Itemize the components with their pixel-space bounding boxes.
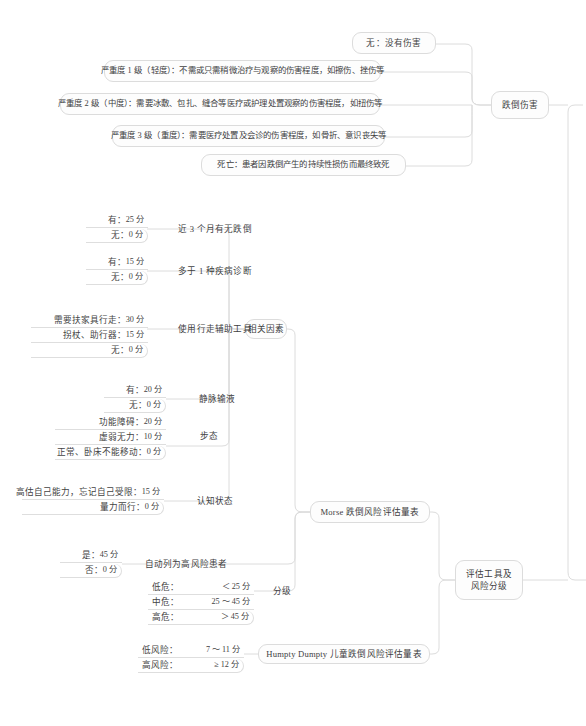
leaf-iv-infusion-yes-key: 有： <box>126 385 144 395</box>
leaf-recent-fall-no-value: 0 分 <box>129 230 143 240</box>
node-injury-none-label: 无：没有伤害 <box>366 38 421 49</box>
leaf-walking-aid-furniture-key: 需要扶家具行走： <box>54 315 126 325</box>
leaf-gait-weak-value: 10 分 <box>144 432 162 442</box>
leaf-auto-high-risk-yes-key: 是： <box>82 550 100 560</box>
node-injury-level1-label: 严重度 1 级（轻度）：不需或只需稍微治疗与观察的伤害程度，如擦伤、挫伤等 <box>101 66 385 77</box>
node-tools-and-grading[interactable]: 评估工具及 风险分级 <box>455 560 523 600</box>
leaf-cognition-within-ability-key: 量力而行： <box>100 502 145 512</box>
node-factor-cognition[interactable]: 认知状态 <box>193 491 237 511</box>
leaf-gait-impaired-key: 功能障碍： <box>99 417 144 427</box>
node-risk-grading-label: 分级 <box>273 586 291 597</box>
node-tools-and-grading-line2: 风险分级 <box>471 580 508 592</box>
leaf-humpty-low-risk[interactable]: 低风险： 7 ～ 11 分 <box>138 644 244 658</box>
leaf-grading-high-key: 高危： <box>152 612 179 622</box>
leaf-grading-low-key: 低危： <box>152 582 179 592</box>
leaf-gait-impaired-value: 20 分 <box>144 417 162 427</box>
leaf-auto-high-risk-no-value: 0 分 <box>103 565 117 575</box>
leaf-iv-infusion-no[interactable]: 无： 0 分 <box>104 399 166 413</box>
leaf-auto-high-risk-yes-value: 45 分 <box>100 550 118 560</box>
leaf-walking-aid-furniture-value: 30 分 <box>126 315 144 325</box>
leaf-walking-aid-none[interactable]: 无： 0 分 <box>31 344 148 358</box>
leaf-gait-normal[interactable]: 正常、卧床不能移动： 0 分 <box>55 446 166 460</box>
leaf-gait-normal-key: 正常、卧床不能移动： <box>57 447 147 457</box>
leaf-multiple-diagnoses-no[interactable]: 无： 0 分 <box>86 271 148 285</box>
leaf-cognition-within-ability-value: 0 分 <box>145 502 159 512</box>
leaf-cognition-within-ability[interactable]: 量力而行： 0 分 <box>22 501 164 515</box>
leaf-humpty-low-risk-value: 7 ～ 11 分 <box>206 645 240 655</box>
leaf-grading-low-value: ＜ 25 分 <box>222 582 250 592</box>
leaf-gait-weak[interactable]: 虚弱无力： 10 分 <box>55 431 166 445</box>
node-morse-scale[interactable]: Morse 跌倒风险评估量表 <box>310 501 430 523</box>
node-injury-level1[interactable]: 严重度 1 级（轻度）：不需或只需稍微治疗与观察的伤害程度，如擦伤、挫伤等 <box>104 60 381 82</box>
leaf-walking-aid-crutch-value: 15 分 <box>126 330 144 340</box>
node-factor-recent-fall-label: 近 3 个月有无跌倒 <box>178 224 252 235</box>
leaf-recent-fall-yes-key: 有： <box>108 215 126 225</box>
leaf-auto-high-risk-no-key: 否： <box>85 565 103 575</box>
leaf-cognition-overestimate-key: 高估自己能力，忘记自己受限： <box>16 487 142 497</box>
node-injury-level3-label: 严重度 3 级（重度）：需要医疗处置及会诊的伤害程度，如骨折、意识丧失等 <box>111 131 387 142</box>
leaf-auto-high-risk-yes[interactable]: 是： 45 分 <box>60 549 122 563</box>
node-fall-injury-label: 跌倒伤害 <box>502 100 539 111</box>
leaf-humpty-high-risk[interactable]: 高风险： ≥ 12 分 <box>138 659 244 673</box>
node-injury-level2[interactable]: 严重度 2 级（中度）：需要冰敷、包扎、缝合等医疗或护理处置观察的伤害程度，如扭… <box>60 93 380 115</box>
leaf-iv-infusion-no-value: 0 分 <box>147 400 161 410</box>
leaf-walking-aid-crutch[interactable]: 拐杖、助行器： 15 分 <box>31 329 148 343</box>
node-humpty-dumpty-scale[interactable]: Humpty Dumpty 儿童跌倒风险评估量表 <box>258 644 430 664</box>
leaf-multiple-diagnoses-yes[interactable]: 有： 15 分 <box>86 256 148 270</box>
leaf-grading-high[interactable]: 高危： ＞ 45 分 <box>148 611 254 625</box>
node-factor-gait[interactable]: 步态 <box>193 426 225 446</box>
leaf-humpty-high-risk-value: ≥ 12 分 <box>214 660 239 670</box>
node-injury-death-label: 死亡：患者因跌倒产生的持续性损伤而最终致死 <box>217 160 389 171</box>
node-factor-iv-infusion-label: 静脉输液 <box>199 394 236 405</box>
leaf-humpty-high-risk-key: 高风险： <box>142 660 178 670</box>
node-injury-level2-label: 严重度 2 级（中度）：需要冰敷、包扎、缝合等医疗或护理处置观察的伤害程度，如扭… <box>58 99 383 110</box>
node-factor-gait-label: 步态 <box>200 431 218 442</box>
leaf-gait-normal-value: 0 分 <box>147 447 161 457</box>
leaf-iv-infusion-no-key: 无： <box>129 400 147 410</box>
node-injury-level3[interactable]: 严重度 3 级（重度）：需要医疗处置及会诊的伤害程度，如骨折、意识丧失等 <box>112 125 385 147</box>
leaf-grading-low[interactable]: 低危： ＜ 25 分 <box>148 581 254 595</box>
leaf-multiple-diagnoses-no-key: 无： <box>111 272 129 282</box>
node-factor-cognition-label: 认知状态 <box>197 496 234 507</box>
leaf-cognition-overestimate-value: 15 分 <box>142 487 160 497</box>
leaf-multiple-diagnoses-yes-value: 15 分 <box>126 257 144 267</box>
leaf-auto-high-risk-no[interactable]: 否： 0 分 <box>60 564 122 578</box>
leaf-walking-aid-none-value: 0 分 <box>129 345 143 355</box>
node-fall-injury[interactable]: 跌倒伤害 <box>491 91 549 119</box>
node-auto-high-risk[interactable]: 自动列为高风险患者 <box>136 554 236 574</box>
leaf-iv-infusion-yes-value: 20 分 <box>144 385 162 395</box>
leaf-humpty-low-risk-key: 低风险： <box>142 645 178 655</box>
node-tools-and-grading-line1: 评估工具及 <box>466 568 512 580</box>
leaf-walking-aid-furniture[interactable]: 需要扶家具行走： 30 分 <box>31 314 148 328</box>
leaf-walking-aid-none-key: 无： <box>111 345 129 355</box>
leaf-grading-medium-key: 中危： <box>152 597 179 607</box>
leaf-grading-medium[interactable]: 中危： 25 ～ 45 分 <box>148 596 254 610</box>
node-injury-none[interactable]: 无：没有伤害 <box>352 32 436 54</box>
leaf-grading-medium-value: 25 ～ 45 分 <box>211 597 250 607</box>
leaf-grading-high-value: ＞ 45 分 <box>221 612 249 622</box>
leaf-gait-weak-key: 虚弱无力： <box>99 432 144 442</box>
node-factor-multiple-diagnoses-label: 多于 1 种疾病诊断 <box>178 266 252 277</box>
leaf-walking-aid-crutch-key: 拐杖、助行器： <box>63 330 126 340</box>
leaf-recent-fall-yes[interactable]: 有： 25 分 <box>86 214 148 228</box>
node-factor-recent-fall[interactable]: 近 3 个月有无跌倒 <box>176 219 254 239</box>
node-factor-walking-aid-label: 使用行走辅助工具 <box>178 324 252 335</box>
node-humpty-dumpty-scale-label: Humpty Dumpty 儿童跌倒风险评估量表 <box>266 649 421 660</box>
node-factor-multiple-diagnoses[interactable]: 多于 1 种疾病诊断 <box>176 261 254 281</box>
node-morse-scale-label: Morse 跌倒风险评估量表 <box>321 507 420 518</box>
node-factor-iv-infusion[interactable]: 静脉输液 <box>193 389 241 409</box>
leaf-recent-fall-no[interactable]: 无： 0 分 <box>86 229 148 243</box>
node-risk-grading[interactable]: 分级 <box>266 581 298 601</box>
node-factor-walking-aid[interactable]: 使用行走辅助工具 <box>176 319 254 339</box>
leaf-gait-impaired[interactable]: 功能障碍： 20 分 <box>55 416 166 430</box>
leaf-iv-infusion-yes[interactable]: 有： 20 分 <box>104 384 166 398</box>
leaf-recent-fall-no-key: 无： <box>111 230 129 240</box>
node-auto-high-risk-label: 自动列为高风险患者 <box>145 559 228 570</box>
leaf-multiple-diagnoses-yes-key: 有： <box>108 257 126 267</box>
leaf-cognition-overestimate[interactable]: 高估自己能力，忘记自己受限： 15 分 <box>22 486 164 500</box>
leaf-multiple-diagnoses-no-value: 0 分 <box>129 272 143 282</box>
node-injury-death[interactable]: 死亡：患者因跌倒产生的持续性损伤而最终致死 <box>201 154 406 176</box>
leaf-recent-fall-yes-value: 25 分 <box>126 215 144 225</box>
